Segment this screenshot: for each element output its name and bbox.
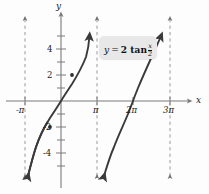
y-tick-label-neg-4: -4 — [43, 149, 51, 158]
x-axis-label: x — [196, 96, 201, 105]
y-tick-label-4: 4 — [47, 45, 52, 54]
equation-function: tan — [130, 45, 147, 55]
axes-group — [6, 14, 190, 188]
x-tick-label-2pi: 2π — [126, 106, 137, 115]
curve-center-branch — [28, 36, 90, 176]
x-tick-label-neg-pi: -π — [16, 106, 24, 115]
point-pi-over-2-2 — [70, 73, 74, 77]
x-tick-label-3pi: 3π — [163, 106, 174, 115]
equation-numerator: x — [148, 43, 152, 50]
equation-label-box: y=2tan x 2 — [99, 36, 157, 59]
y-tick-label-neg-2: -2 — [43, 123, 51, 132]
equation-denominator: 2 — [148, 50, 152, 58]
graph-canvas — [0, 0, 209, 194]
equation-coefficient: 2 — [121, 45, 127, 55]
y-tick-label-2: 2 — [47, 71, 52, 80]
equation-label-text: y=2tan x 2 — [104, 45, 152, 55]
equation-fraction: x 2 — [148, 43, 152, 57]
equation-equals: = — [111, 45, 119, 55]
x-tick-label-pi: π — [93, 106, 99, 115]
y-axis-label: y — [56, 2, 61, 11]
equation-y: y — [104, 45, 109, 55]
tangent-function-graph-figure: x y -π π 2π 3π 4 2 -2 -4 y=2tan x 2 — [0, 0, 209, 194]
